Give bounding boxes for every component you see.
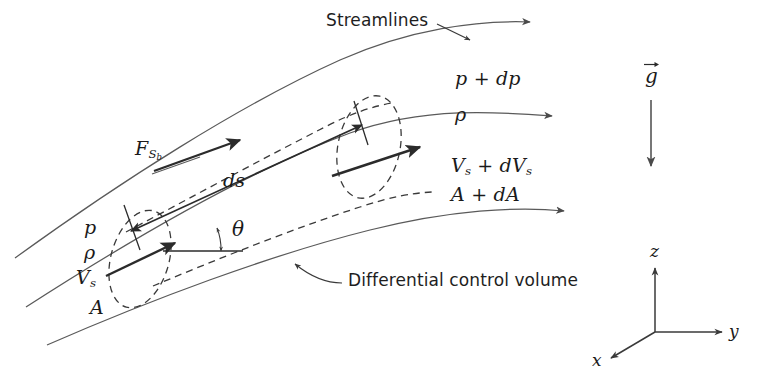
plus-symbol-area: + xyxy=(471,183,487,205)
control-volume-outlet-face xyxy=(328,90,410,205)
plus-symbol-velocity: + xyxy=(477,154,493,176)
outlet-velocity-label: Vs + dVs xyxy=(451,156,532,178)
arc-length-ds-label: ds xyxy=(223,171,245,190)
outlet-density-label: ρ xyxy=(455,105,466,124)
axis-label-z: z xyxy=(650,243,659,260)
theta-angle-group xyxy=(163,228,243,251)
outlet-area-base: A xyxy=(451,183,465,205)
outlet-velocity-delta: dV xyxy=(500,154,526,176)
ds-outlet-tick xyxy=(354,101,368,145)
streamlines-label: Streamlines xyxy=(326,12,428,29)
surface-force-base: F xyxy=(135,137,148,159)
control-volume-callout-leader xyxy=(295,264,342,283)
inlet-velocity-subscript: s xyxy=(90,276,96,290)
inlet-area-label: A xyxy=(90,298,104,317)
axis-label-y: y xyxy=(729,323,739,340)
figure-canvas: Streamlines Differential control volume … xyxy=(0,0,759,371)
velocity-arrow-group xyxy=(106,147,420,276)
control-volume-leader-line xyxy=(295,264,342,283)
surface-force-sub-b: b xyxy=(156,153,161,163)
inlet-velocity-base: V xyxy=(76,266,90,288)
angle-theta-label: θ xyxy=(232,219,244,239)
inlet-velocity-arrow xyxy=(106,243,175,276)
plus-symbol-pressure: + xyxy=(474,67,490,89)
outlet-velocity-delta-subscript: s xyxy=(526,164,532,178)
outlet-velocity-arrow xyxy=(332,147,420,176)
ds-dimension-arrow xyxy=(131,125,362,231)
differential-control-volume-label: Differential control volume xyxy=(348,272,578,289)
theta-arc xyxy=(217,228,221,251)
outlet-area-label: A + dA xyxy=(451,185,520,204)
inlet-velocity-label: Vs xyxy=(76,268,96,290)
diagram-vector-layer xyxy=(0,0,759,371)
surface-force-label: FSb xyxy=(135,139,162,162)
outlet-pressure-label: p + dp xyxy=(455,69,521,88)
inlet-pressure-label: p xyxy=(84,218,96,237)
outlet-area-delta: dA xyxy=(494,183,520,205)
inlet-density-label: ρ xyxy=(84,243,95,262)
axis-x-line xyxy=(611,332,655,358)
surface-force-subscript: Sb xyxy=(148,147,161,161)
outlet-pressure-delta: dp xyxy=(496,67,521,89)
gravity-vector-label: g xyxy=(645,64,658,86)
axis-label-x: x xyxy=(592,352,602,369)
coordinate-axes-group xyxy=(611,268,722,358)
outlet-velocity-base: V xyxy=(451,154,465,176)
outlet-pressure-base: p xyxy=(455,67,467,89)
vector-overbar-arrow-icon xyxy=(644,61,659,68)
